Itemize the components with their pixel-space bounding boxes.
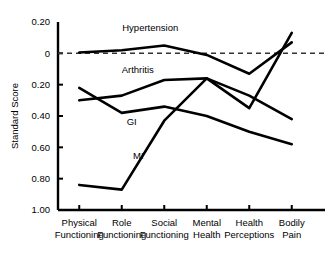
line-chart: 0.2000.200.400.600.801.00HypertensionArt…: [0, 0, 329, 255]
x-tick-label: Bodily: [279, 217, 305, 228]
y-tick-label: 1.00: [32, 204, 51, 215]
x-tick-label: Role: [112, 217, 132, 228]
x-tick-label: Social: [151, 217, 177, 228]
y-tick-label: 0.60: [32, 142, 51, 153]
x-tick-label: Health: [193, 229, 220, 240]
x-tick-label: Functioning: [140, 229, 189, 240]
x-tick-label: Physical: [62, 217, 97, 228]
series-label-mi: MI: [133, 150, 144, 161]
y-tick-label: 0.20: [32, 79, 51, 90]
y-axis-title: Standard Score: [9, 83, 20, 149]
y-tick-label: 0.80: [32, 173, 51, 184]
chart-container: 0.2000.200.400.600.801.00HypertensionArt…: [0, 0, 329, 255]
series-label-hypertension: Hypertension: [122, 22, 178, 33]
series-label-gi: GI: [127, 116, 137, 127]
x-tick-label: Pain: [282, 229, 301, 240]
y-tick-label: 0.20: [32, 16, 51, 27]
x-tick-label: Health: [236, 217, 263, 228]
series-line-hypertension: [79, 42, 292, 73]
x-tick-label: Mental: [192, 217, 221, 228]
series-label-arthritis: Arthritis: [122, 64, 154, 75]
y-tick-label: 0.40: [32, 110, 51, 121]
x-tick-label: Perceptions: [224, 229, 274, 240]
y-tick-label: 0: [45, 48, 50, 59]
